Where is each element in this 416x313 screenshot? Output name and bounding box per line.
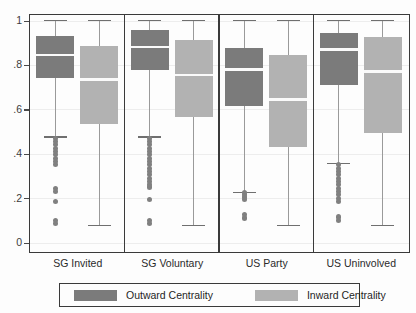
panel-separator xyxy=(124,15,126,252)
whisker-cap-lower xyxy=(277,225,300,226)
boxplot-figure: 0.2.4.6.81 SG InvitedSG VoluntaryUS Part… xyxy=(0,0,416,313)
outlier-point xyxy=(336,199,341,204)
whisker-cap-upper xyxy=(371,20,394,21)
box-sg-invited-inward xyxy=(80,46,118,124)
median-line xyxy=(36,54,74,56)
plot-area xyxy=(29,14,410,253)
outlier-point xyxy=(147,197,152,202)
y-tick-label: 0 xyxy=(16,236,22,249)
whisker-cap-upper xyxy=(277,20,300,21)
outlier-point xyxy=(242,215,247,220)
x-tick-label-us-uninvolved: US Uninvolved xyxy=(314,257,409,270)
box-us-party-outward xyxy=(225,48,263,106)
x-tick-label-us-party: US Party xyxy=(220,257,315,270)
whisker-cap-upper xyxy=(327,20,350,21)
box-us-uninvolved-outward xyxy=(320,33,358,85)
panel-separator xyxy=(313,15,315,252)
outlier-point xyxy=(147,221,152,226)
whisker-cap-upper xyxy=(233,20,256,21)
outlier-point xyxy=(242,197,247,202)
y-axis: 0.2.4.6.81 xyxy=(0,14,29,253)
whisker-cap-upper xyxy=(138,20,161,21)
median-line xyxy=(364,70,402,72)
x-axis: SG InvitedSG VoluntaryUS PartyUS Uninvol… xyxy=(29,253,410,275)
median-line xyxy=(80,78,118,80)
outlier-point xyxy=(53,189,58,194)
outlier-point xyxy=(53,221,58,226)
legend-swatch-inward xyxy=(255,290,298,301)
whisker-cap-lower xyxy=(88,225,111,226)
whisker-line xyxy=(244,21,245,193)
median-line xyxy=(320,48,358,50)
outlier-point xyxy=(336,218,341,223)
chart-legend: Outward CentralityInward Centrality xyxy=(59,283,360,307)
whisker-cap-lower xyxy=(371,225,394,226)
outlier-point xyxy=(53,162,58,167)
outlier-point xyxy=(147,184,152,189)
box-sg-voluntary-outward xyxy=(131,30,169,70)
y-tick-label: 1 xyxy=(16,14,22,27)
legend-label-outward: Outward Centrality xyxy=(126,289,213,302)
median-line xyxy=(175,74,213,76)
y-tick-label: .4 xyxy=(13,147,22,160)
median-line xyxy=(269,98,307,100)
legend-entry-outward[interactable]: Outward Centrality xyxy=(74,289,213,302)
legend-label-inward: Inward Centrality xyxy=(307,289,386,302)
y-tick-label: .6 xyxy=(13,103,22,116)
median-line xyxy=(225,68,263,70)
panel-separator xyxy=(218,15,220,252)
x-tick-label-sg-voluntary: SG Voluntary xyxy=(125,257,220,270)
x-tick-label-sg-invited: SG Invited xyxy=(31,257,126,270)
y-tick-label: .8 xyxy=(13,58,22,71)
box-us-party-inward xyxy=(269,55,307,147)
legend-swatch-outward xyxy=(74,290,117,301)
y-tick-label: .2 xyxy=(13,192,22,205)
median-line xyxy=(131,46,169,48)
whisker-cap-upper xyxy=(88,20,111,21)
whisker-cap-lower xyxy=(182,225,205,226)
box-sg-invited-outward xyxy=(36,36,74,78)
whisker-cap-upper xyxy=(44,20,67,21)
outlier-point xyxy=(53,199,58,204)
legend-entry-inward[interactable]: Inward Centrality xyxy=(255,289,386,302)
box-sg-voluntary-inward xyxy=(175,40,213,117)
whisker-cap-upper xyxy=(182,20,205,21)
box-us-uninvolved-inward xyxy=(364,37,402,132)
